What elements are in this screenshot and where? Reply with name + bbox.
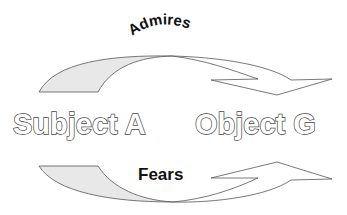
admires-label: Admires <box>125 10 194 38</box>
admires-arrow-tail <box>39 56 172 92</box>
subject-label: Subject A <box>13 108 146 140</box>
fears-arrow <box>39 162 332 202</box>
relationship-diagram: Admires Subject A Object G Fears <box>0 0 347 215</box>
fears-arrow-head <box>173 162 332 202</box>
admires-arrow <box>39 56 332 95</box>
admires-arrow-head <box>172 56 332 95</box>
object-label: Object G <box>195 108 316 140</box>
fears-label: Fears <box>138 165 183 184</box>
